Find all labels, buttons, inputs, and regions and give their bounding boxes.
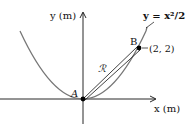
diagram-canvas: y (m) y = x²/2 (2, 2) x (m) A B ℛ [0, 0, 194, 124]
region-label: ℛ [98, 63, 107, 74]
region-strip [83, 47, 140, 100]
y-axis-label: y (m) [49, 10, 76, 21]
x-axis-label: x (m) [154, 103, 180, 114]
point-B-coords: (2, 2) [149, 43, 175, 54]
point-A-label: A [70, 88, 78, 99]
curve-label-leader [146, 22, 154, 28]
point-A [81, 97, 86, 102]
point-B-label: B [130, 36, 137, 47]
curve-label: y = x²/2 [142, 10, 185, 21]
y-axis [80, 12, 86, 124]
